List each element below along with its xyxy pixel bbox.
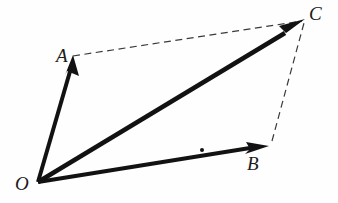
vertex-label-o: O <box>15 174 29 193</box>
vertex-label-c: C <box>309 4 322 23</box>
figure-root: O A B C <box>0 0 338 203</box>
midpoint-dot-icon <box>200 148 204 152</box>
vertex-label-a: A <box>56 46 68 65</box>
vector-diagram-canvas <box>0 0 338 203</box>
vertex-label-b: B <box>247 154 259 173</box>
